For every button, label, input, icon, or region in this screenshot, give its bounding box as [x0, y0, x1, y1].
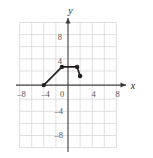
data-point — [78, 74, 82, 78]
x-tick-label-neg8: –8 — [16, 89, 26, 99]
origin-label: 0 — [60, 89, 64, 99]
y-tick-label-4: 4 — [58, 56, 63, 66]
y-axis-label: y — [67, 5, 73, 16]
x-axis-label: x — [130, 80, 136, 91]
data-point — [42, 83, 46, 87]
data-points — [42, 65, 83, 88]
y-tick-label-neg4: –4 — [54, 106, 64, 116]
data-point — [60, 65, 64, 69]
x-tick-label-neg4: –4 — [40, 89, 50, 99]
x-tick-label-4: 4 — [91, 89, 96, 99]
x-axis — [16, 83, 126, 88]
x-tick-label-8: 8 — [115, 89, 119, 99]
y-tick-label-8: 8 — [58, 32, 62, 42]
data-point — [75, 65, 79, 69]
graph-figure: x y –8 –4 4 8 0 8 4 –4 –8 — [0, 0, 153, 158]
coordinate-plot: x y –8 –4 4 8 0 8 4 –4 –8 — [0, 0, 153, 158]
function-polyline — [44, 67, 80, 85]
y-tick-label-neg8: –8 — [54, 130, 64, 140]
